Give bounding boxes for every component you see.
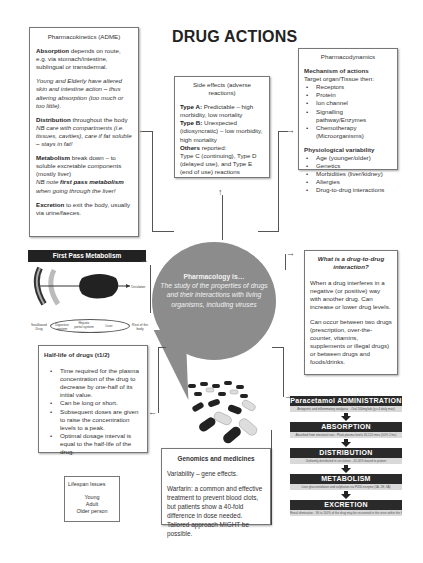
genomics-para1: Variability – gene effects. — [167, 469, 265, 478]
metabolism-note-pre: NB note — [36, 178, 60, 185]
bubble-definition: The study of the properties of drugs and… — [160, 282, 267, 307]
connector-flow-vertical — [283, 347, 284, 397]
arrow-down-icon — [341, 465, 351, 473]
variability-item: Age (younger/older) — [304, 154, 392, 162]
absorption-label: Absorption — [36, 47, 69, 54]
variability-list: Age (younger/older) Genetics Morbidities… — [304, 154, 392, 194]
flow-step-sub: Uniformly distributed in circulation - 2… — [290, 458, 402, 464]
flow-label: Digestive system — [54, 323, 70, 331]
flow-label: Rest of the body — [132, 323, 148, 331]
flow-step-sub: Absorbed from intestinal tract - Peak pl… — [290, 432, 402, 438]
pharmacodynamics-box: Pharmacodynamics Mechanism of actions Ta… — [298, 48, 398, 170]
mechanism-item: Chemotherapy (Microorganisms) — [304, 124, 392, 140]
metabolism-paragraph: Metabolism break down – to soluble excre… — [36, 154, 132, 194]
flow-step-administration: Paracetamol ADMINISTRATION — [290, 396, 402, 406]
metabolism-note-bold: first pass metabolism — [60, 178, 124, 185]
metabolism-label: Metabolism — [36, 154, 70, 161]
mechanism-intro: Target organ/Tissue then: — [304, 75, 392, 83]
flow-label: Hepatic portal system — [74, 321, 94, 329]
connector-fpm — [150, 265, 151, 313]
pharmacokinetics-heading: Pharmacokinetics (ADME) — [36, 33, 132, 41]
connector-left-vertical — [152, 131, 153, 231]
arrow-up-icon: ↑ — [218, 188, 223, 197]
connector-left-horizontal — [152, 231, 174, 232]
connector-genomics-right — [271, 430, 272, 525]
liver-diagram-icon: Circulation — [30, 264, 148, 314]
arrow-left-icon: ← — [148, 408, 157, 417]
flow-step-metabolism: METABOLISM — [290, 474, 402, 484]
arrow-left-icon: ← — [138, 126, 147, 135]
connector-right-vertical — [278, 131, 279, 231]
variability-item: Morbidities (liver/kidney) — [304, 170, 392, 178]
page-title: DRUG ACTIONS — [172, 28, 297, 46]
drug-interaction-heading: What is a drug-to-drug interaction? — [310, 255, 392, 271]
drug-interaction-para1: When a drug interferes in a negative (or… — [310, 279, 392, 311]
first-pass-diagram: Circulation — [30, 264, 148, 314]
half-life-item: Time required for the plasma concentrati… — [48, 367, 142, 399]
mechanism-heading: Mechanism of actions — [304, 67, 392, 75]
half-life-heading: Half-life of drugs (t1/2) — [44, 351, 142, 359]
type-a-label: Type A: — [180, 103, 202, 110]
type-b-line: Type B: Unexpected (idiosyncratic) – low… — [180, 119, 264, 143]
distribution-note: NB care with compartments (i.e. tissues,… — [36, 124, 132, 147]
others-label: Others — [180, 144, 200, 151]
distribution-text: throughout the body — [71, 116, 128, 123]
metabolism-note-post: when going through the liver! — [36, 187, 115, 194]
pharmacodynamics-heading: Pharmacodynamics — [304, 53, 392, 61]
bubble-text: Pharmacology is… The study of the proper… — [158, 272, 270, 309]
excretion-label: Excretion — [36, 201, 64, 208]
arrow-right-icon: → — [286, 126, 295, 135]
flow-step-sub: Antipyretic and inflammatory analgesic -… — [290, 406, 402, 412]
lifespan-heading: Lifespan Issues — [68, 481, 116, 488]
others-text: reported: — [200, 144, 226, 151]
svg-text:Circulation: Circulation — [131, 285, 146, 289]
flow-step-absorption: ABSORPTION — [290, 422, 402, 432]
flow-label: Swallowed Drug — [30, 323, 48, 331]
drug-interaction-box: What is a drug-to-drug interaction? When… — [304, 250, 398, 375]
flow-step-sub: Renal elimination - 90 to 100% of the dr… — [290, 510, 402, 516]
type-a-line: Type A: Predictable – high morbidity, lo… — [180, 103, 264, 119]
lifespan-box: Lifespan Issues Young Adult Older person — [64, 476, 120, 522]
mechanism-item: Receptors — [304, 83, 392, 91]
half-life-box: Half-life of drugs (t1/2) Time required … — [38, 345, 148, 453]
arrow-right-icon: → — [286, 249, 295, 258]
variability-item: Drug-to-drug interactions — [304, 186, 392, 194]
bubble-heading: Pharmacology is… — [158, 272, 270, 281]
others-line: Others reported: — [180, 144, 264, 152]
connector-half-life — [158, 347, 159, 413]
connector-right-horizontal — [258, 231, 279, 232]
flow-step-distribution: DISTRIBUTION — [290, 448, 402, 458]
connector-to-side-effects — [222, 195, 223, 240]
absorption-note: Young and Elderly have altered skin and … — [36, 77, 132, 109]
lifespan-item: Young — [68, 494, 116, 501]
arrow-down-icon — [341, 491, 351, 499]
half-life-item: Optimal dosage interval is equal to the … — [48, 432, 142, 456]
half-life-item: Can be long or short. — [48, 399, 142, 407]
mechanism-item: Signalling pathway/Enzymes — [304, 108, 392, 124]
flow-step-excretion: EXCRETION — [290, 500, 402, 510]
first-pass-heading: First Pass Metabolism — [28, 250, 146, 262]
genomics-box: Genomics and medicines Variability – gen… — [161, 448, 271, 525]
arrow-down-icon — [341, 413, 351, 421]
lifespan-item: Adult — [68, 501, 116, 508]
half-life-item: Subsequent doses are given to raise the … — [48, 408, 142, 432]
mechanism-list: Receptors Protein Ion channel Signalling… — [304, 83, 392, 140]
genomics-para2: Warfarin: a common and effective treatme… — [167, 484, 265, 538]
mechanism-item: Ion channel — [304, 99, 392, 107]
drug-interaction-para2: Can occur between two drugs (prescriptio… — [310, 318, 392, 367]
pills-icon — [178, 378, 268, 448]
pills-image — [178, 378, 268, 448]
mechanism-item: Protein — [304, 91, 392, 99]
lifespan-item: Older person — [68, 508, 116, 515]
first-pass-flow: Swallowed Drug Digestive system Hepatic … — [30, 318, 148, 334]
absorption-paragraph: Absorption depends on route, e.g. via st… — [36, 47, 132, 71]
excretion-paragraph: Excretion to exit the body, usually via … — [36, 201, 132, 217]
distribution-label: Distribution — [36, 116, 71, 123]
connector-half-life-top — [158, 347, 166, 348]
pharmacokinetics-box: Pharmacokinetics (ADME) Absorption depen… — [29, 27, 139, 237]
variability-item: Genetics — [304, 162, 392, 170]
others-detail: Type C (continuing), Type D (delayed use… — [180, 152, 264, 176]
distribution-paragraph: Distribution throughout the bodyNB care … — [36, 116, 132, 148]
arrow-left-icon: ← — [140, 256, 149, 265]
variability-item: Allergies — [304, 178, 392, 186]
